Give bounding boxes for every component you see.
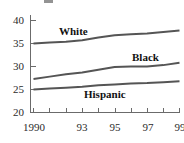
series-line-white	[34, 31, 180, 44]
series-label-hispanic: Hispanic	[84, 89, 126, 100]
x-tick-marks	[34, 108, 180, 113]
series-line-black	[34, 63, 180, 79]
y-axis-label-25: 25	[4, 84, 24, 95]
series-label-white: White	[59, 26, 88, 37]
y-axis-label-30: 30	[4, 61, 24, 72]
y-axis-label-40: 40	[4, 15, 24, 26]
x-axis-label-1990: 1990	[16, 122, 52, 133]
x-axis-label-99: 99	[167, 122, 184, 133]
x-axis-label-95: 95	[102, 122, 128, 133]
x-axis-label-97: 97	[135, 122, 161, 133]
y-axis-label-35: 35	[4, 38, 24, 49]
y-axis-label-20: 20	[4, 107, 24, 118]
series-label-black: Black	[132, 52, 159, 63]
line-chart: 40 35 30 25 20 1990 93 95 97 99 White Bl…	[0, 0, 184, 143]
x-axis-label-93: 93	[69, 122, 95, 133]
